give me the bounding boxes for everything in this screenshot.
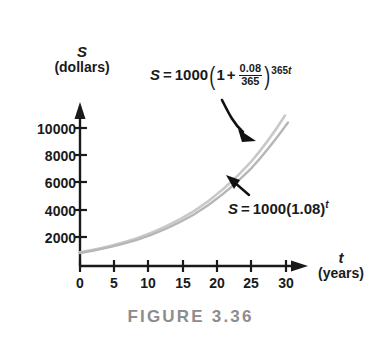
x-tick-label-0: 0 bbox=[67, 275, 93, 291]
formula-annual-base: 1.08 bbox=[291, 200, 320, 217]
fraction-numerator: 0.08 bbox=[239, 63, 262, 75]
formula-daily-open-paren: ( bbox=[209, 62, 215, 91]
formula-daily-coefficient: 1000 bbox=[175, 66, 208, 83]
x-axis-symbol: t bbox=[306, 250, 376, 266]
formula-daily-equals: = bbox=[163, 66, 172, 83]
y-tick-label-1: 2000 bbox=[0, 230, 76, 244]
formula-annual-coefficient: 1000 bbox=[253, 200, 286, 217]
formula-daily-close-paren: ) bbox=[264, 62, 270, 91]
y-tick-text: 2000 bbox=[45, 230, 76, 246]
x-tick-label-25: 25 bbox=[238, 275, 264, 291]
figure-caption: FIGURE 3.36 bbox=[0, 307, 381, 327]
x-tick-label-5: 5 bbox=[101, 275, 127, 291]
x-tick-label-20: 20 bbox=[204, 275, 230, 291]
y-tick-label-3: 6000 bbox=[0, 175, 76, 189]
formula-daily-compounding: S=1000(1+0.08365)365t bbox=[150, 62, 291, 91]
formula-annual-equals: = bbox=[241, 200, 250, 217]
formula-annual-lhs: S bbox=[228, 200, 238, 217]
y-tick-label-2: 4000 bbox=[0, 203, 76, 217]
y-tick-label-4: 8000 bbox=[0, 148, 76, 162]
formula-daily-fraction: 0.08365 bbox=[239, 63, 262, 87]
y-axis-unit: (dollars) bbox=[42, 60, 122, 75]
formula-daily-one: 1 bbox=[216, 66, 224, 83]
x-axis-unit: (years) bbox=[306, 266, 376, 281]
x-tick-label-30: 30 bbox=[273, 275, 299, 291]
y-axis-label: S (dollars) bbox=[42, 44, 122, 74]
formula-daily-plus: + bbox=[227, 66, 236, 83]
y-axis-symbol: S bbox=[42, 44, 122, 60]
formula-daily-exponent: 365t bbox=[271, 65, 291, 76]
y-tick-text: 6000 bbox=[45, 175, 76, 191]
formula-annual-exponent: t bbox=[325, 199, 328, 210]
formula-annual-compounding: S=1000(1.08)t bbox=[228, 199, 329, 217]
y-tick-text: 8000 bbox=[45, 148, 76, 164]
y-tick-text: 4000 bbox=[45, 203, 76, 219]
figure-container: S (dollars) t (years) 10000 8000 6000 40… bbox=[0, 0, 381, 348]
formula-daily-lhs: S bbox=[150, 66, 160, 83]
x-tick-label-15: 15 bbox=[170, 275, 196, 291]
x-tick-label-10: 10 bbox=[135, 275, 161, 291]
exponent-coefficient: 365 bbox=[271, 65, 288, 76]
exponent-variable: t bbox=[288, 65, 291, 76]
curve-daily-compounding bbox=[80, 116, 285, 253]
curved-arrow-to-daily-curve bbox=[222, 100, 256, 142]
fraction-denominator: 365 bbox=[239, 75, 262, 88]
x-axis-label: t (years) bbox=[306, 250, 376, 280]
y-tick-label-5: 10000 bbox=[0, 121, 76, 135]
y-tick-text: 10000 bbox=[37, 121, 76, 137]
curve-annual-compounding bbox=[80, 123, 288, 254]
y-axis bbox=[75, 102, 86, 266]
